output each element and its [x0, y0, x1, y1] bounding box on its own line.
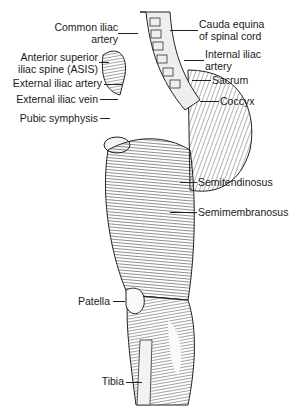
leader-coccyx — [200, 101, 219, 102]
label-sacrum: Sacrum — [212, 74, 248, 86]
leader-cauda-equina — [170, 30, 198, 31]
tibia — [137, 340, 152, 405]
thigh — [105, 139, 194, 300]
label-semitendinosus: Semitendinosus — [198, 176, 273, 188]
label-coccyx: Coccyx — [220, 95, 254, 107]
leader-common-iliac-artery — [118, 33, 138, 34]
leader-external-iliac-vein — [100, 99, 118, 100]
spine-column — [140, 12, 200, 110]
leader-pubic-symphysis — [100, 118, 110, 119]
label-semimembranosus: Semimembranosus — [198, 206, 288, 218]
label-asis: Anterior superioriliac spine (ASIS) — [14, 51, 98, 75]
leader-tibia — [126, 382, 142, 383]
iliac-wing — [102, 51, 125, 95]
label-tibia: Tibia — [80, 375, 124, 387]
leader-sacrum — [192, 80, 211, 81]
label-common-iliac-artery: Common iliacartery — [40, 21, 118, 45]
patella — [126, 288, 144, 314]
gluteal-region — [188, 70, 252, 191]
label-external-iliac-artery: External iliac artery — [2, 77, 102, 89]
leader-asis — [99, 62, 109, 63]
leader-external-iliac-artery — [104, 84, 122, 85]
label-external-iliac-vein: External iliac vein — [2, 93, 98, 105]
leader-patella — [113, 301, 125, 302]
label-internal-iliac-artery: Internal iliacartery — [205, 48, 261, 72]
label-pubic-symphysis: Pubic symphysis — [2, 112, 98, 124]
label-cauda-equina: Cauda equinaof spinal cord — [199, 18, 264, 42]
label-patella: Patella — [50, 295, 110, 307]
leader-semimembranosus — [170, 212, 197, 213]
leader-semitendinosus — [180, 182, 197, 183]
leader-internal-iliac-artery — [184, 60, 204, 61]
